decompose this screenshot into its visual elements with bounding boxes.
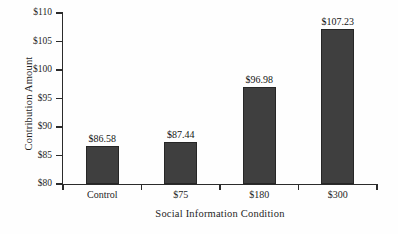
y-axis-tick	[56, 155, 63, 156]
bar-value-label: $86.58	[63, 133, 141, 144]
y-axis-tick	[56, 69, 63, 70]
x-axis-title: Social Information Condition	[63, 208, 377, 219]
y-axis-tick	[56, 98, 63, 99]
y-axis-tick	[56, 12, 63, 13]
bar-value-label: $107.23	[299, 16, 377, 27]
bar	[243, 87, 276, 184]
y-axis-tick-label: $110	[0, 7, 52, 17]
y-axis-tick-label: $90	[0, 121, 52, 131]
y-axis-tick	[56, 41, 63, 42]
bar	[321, 29, 354, 184]
bar-chart-figure: Contribution Amount Social Information C…	[0, 0, 398, 234]
y-axis-title: Contribution Amount	[23, 24, 34, 184]
y-axis-tick	[56, 126, 63, 127]
x-axis-category-label: $75	[142, 189, 220, 200]
y-axis-tick-label: $105	[0, 36, 52, 46]
bar	[164, 142, 197, 184]
x-axis-category-label: $300	[299, 189, 377, 200]
y-axis-tick-label: $85	[0, 150, 52, 160]
y-axis-tick-label: $95	[0, 93, 52, 103]
y-axis-tick-label: $80	[0, 178, 52, 188]
bar	[86, 146, 119, 184]
x-axis-category-label: $180	[220, 189, 298, 200]
x-axis-category-label: Control	[63, 189, 141, 200]
y-axis-tick-label: $100	[0, 64, 52, 74]
bar-value-label: $96.98	[220, 74, 298, 85]
bar-value-label: $87.44	[142, 129, 220, 140]
